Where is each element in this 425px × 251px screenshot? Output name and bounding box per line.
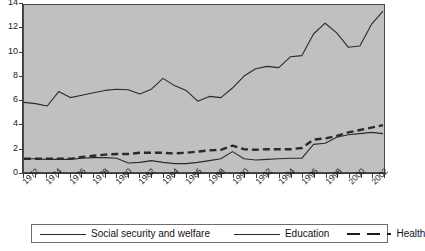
y-tick-label: 10 xyxy=(8,47,18,56)
plot-area xyxy=(23,4,385,173)
legend-entry[interactable]: Social security and welfare xyxy=(40,229,210,239)
y-tick-label: 4 xyxy=(13,119,18,128)
legend-swatch-solid-icon xyxy=(234,230,280,238)
y-tick-label: 8 xyxy=(13,71,18,80)
legend-label: Health xyxy=(396,229,425,239)
legend-label: Education xyxy=(285,229,329,239)
y-tick-label: 12 xyxy=(8,22,18,31)
chart-legend: Social security and welfareEducationHeal… xyxy=(31,224,388,243)
y-tick-label: 14 xyxy=(8,0,18,7)
legend-entry[interactable]: Education xyxy=(234,229,329,239)
legend-label: Social security and welfare xyxy=(91,229,210,239)
legend-swatch-dashed-icon xyxy=(347,230,391,238)
y-axis: 02468101214 xyxy=(0,0,23,178)
series-lines xyxy=(24,5,384,172)
series-line xyxy=(24,11,383,106)
legend-entry[interactable]: Health xyxy=(347,229,425,239)
series-line xyxy=(24,125,383,159)
y-tick-label: 0 xyxy=(13,168,18,177)
legend-swatch-solid-icon xyxy=(40,230,86,238)
y-tick-label: 6 xyxy=(13,95,18,104)
y-tick-label: 2 xyxy=(13,144,18,153)
